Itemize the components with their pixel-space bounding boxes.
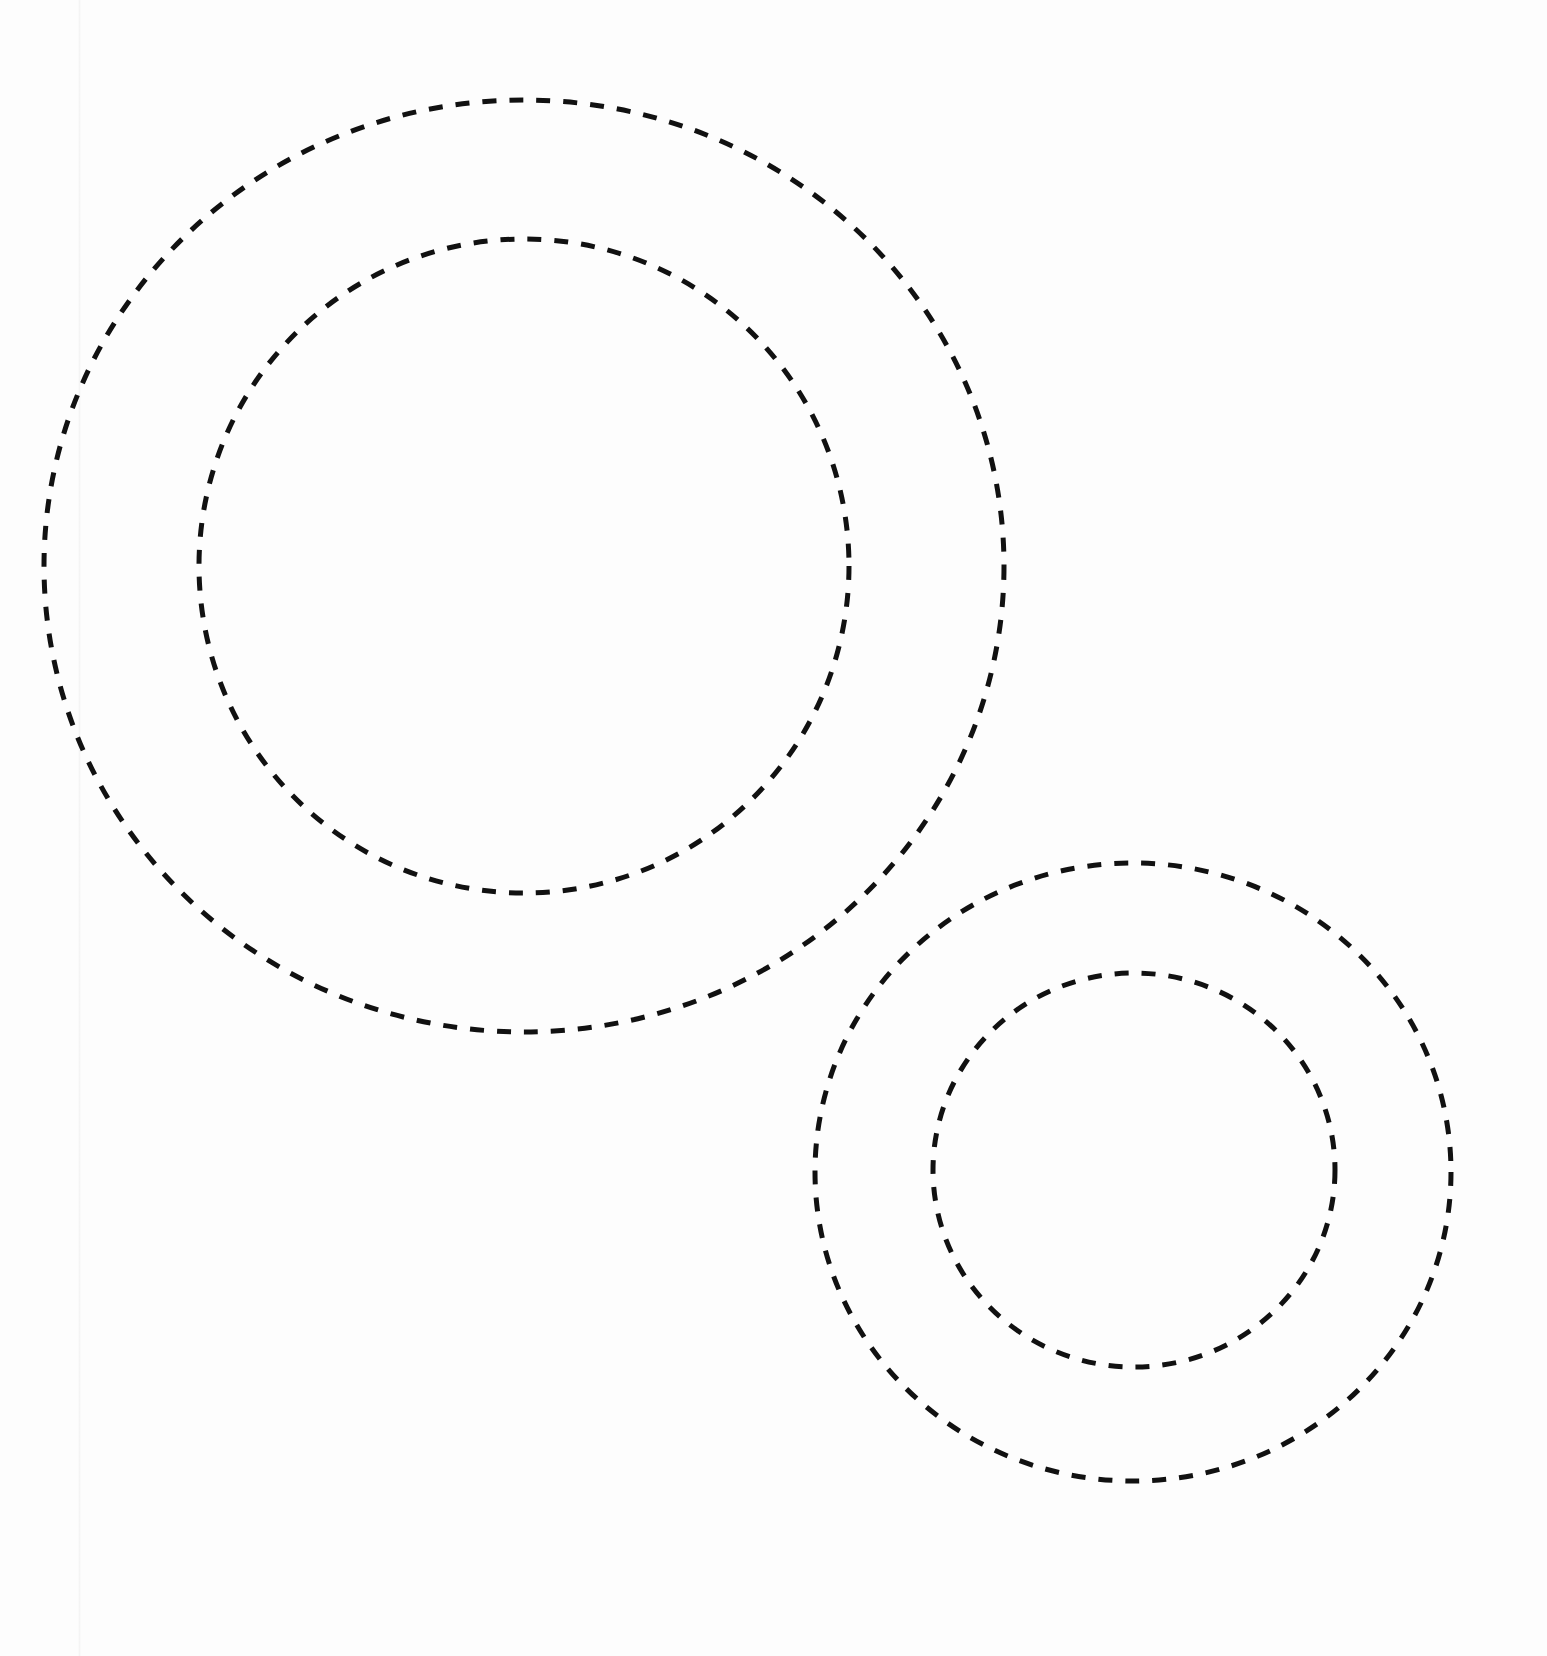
- concentric-circles-diagram: [0, 0, 1547, 1656]
- scanned-page: [0, 0, 1547, 1656]
- small-inner-dashed-circle: [933, 973, 1335, 1367]
- small-concentric-pair: [815, 863, 1451, 1481]
- large-concentric-pair: [44, 100, 1004, 1032]
- large-inner-dashed-circle: [199, 239, 849, 893]
- small-outer-dashed-circle: [815, 863, 1451, 1481]
- large-outer-dashed-circle: [44, 100, 1004, 1032]
